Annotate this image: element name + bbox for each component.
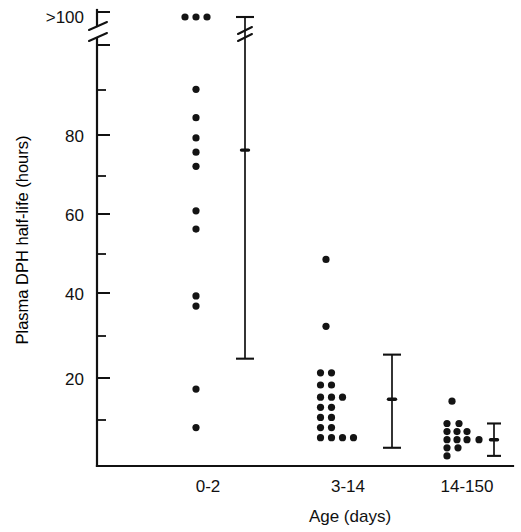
data-point — [475, 436, 482, 443]
data-point — [443, 428, 450, 435]
y-axis-title: Plasma DPH half-life (hours) — [13, 135, 31, 344]
y-axis-above-limit-label: >100 — [46, 8, 84, 27]
data-point — [463, 428, 470, 435]
data-point — [339, 394, 346, 401]
data-point — [192, 86, 199, 93]
data-point — [317, 414, 324, 421]
error-bar-3-14 — [383, 355, 401, 448]
data-point — [181, 13, 188, 20]
data-point — [203, 13, 210, 20]
series-group-14-150 — [443, 398, 501, 460]
data-point — [317, 424, 324, 431]
x-category-label-3-14: 3-14 — [331, 477, 365, 496]
data-point — [453, 428, 460, 435]
data-point — [339, 434, 346, 441]
y-tick-label-60: 60 — [65, 206, 84, 225]
data-point — [317, 369, 324, 376]
y-tick-label-40: 40 — [65, 285, 84, 304]
data-point — [317, 381, 324, 388]
data-point — [443, 420, 450, 427]
data-point — [192, 385, 199, 392]
error-bar-14-150 — [487, 423, 501, 455]
data-point — [328, 414, 335, 421]
data-point — [328, 404, 335, 411]
data-point — [455, 420, 462, 427]
data-point — [328, 434, 335, 441]
data-point — [317, 434, 324, 441]
data-point — [192, 302, 199, 309]
data-point — [463, 436, 470, 443]
data-point — [350, 434, 357, 441]
data-point — [443, 444, 450, 451]
data-point — [192, 424, 199, 431]
y-tick-label-20: 20 — [65, 370, 84, 389]
x-axis-title: Age (days) — [309, 507, 391, 526]
data-point — [192, 149, 199, 156]
series-group-0-2 — [181, 13, 254, 431]
error-bar-0-2 — [236, 17, 254, 359]
data-point — [454, 444, 461, 451]
data-point — [448, 398, 455, 405]
data-point — [317, 404, 324, 411]
data-point — [192, 134, 199, 141]
data-point — [192, 207, 199, 214]
data-point — [192, 225, 199, 232]
x-category-label-14-150: 14-150 — [441, 477, 494, 496]
data-point — [317, 394, 324, 401]
series-group-3-14 — [317, 256, 401, 448]
data-point — [192, 114, 199, 121]
data-point — [443, 452, 450, 459]
data-point — [322, 256, 329, 263]
data-point — [328, 394, 335, 401]
y-tick-label-80: 80 — [65, 127, 84, 146]
data-point — [192, 292, 199, 299]
data-point — [443, 436, 450, 443]
scatter-plot: >100 80 60 40 20 Plasma DPH half-life (h… — [0, 0, 521, 532]
data-layer — [181, 13, 501, 459]
x-category-label-0-2: 0-2 — [196, 477, 221, 496]
data-point — [328, 381, 335, 388]
data-point — [192, 13, 199, 20]
data-point — [453, 436, 460, 443]
data-point — [328, 424, 335, 431]
figure-container: >100 80 60 40 20 Plasma DPH half-life (h… — [0, 0, 521, 532]
data-point — [192, 163, 199, 170]
data-point — [328, 369, 335, 376]
data-point — [322, 323, 329, 330]
